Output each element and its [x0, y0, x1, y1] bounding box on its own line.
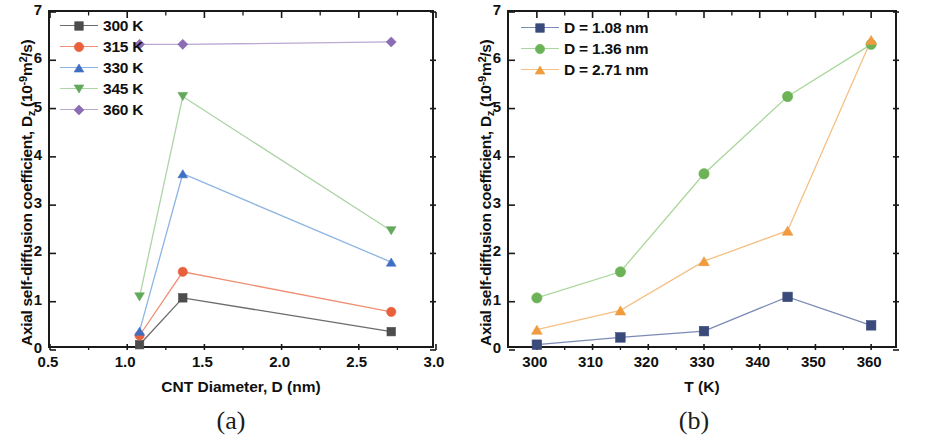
y-tick-label: 4: [473, 146, 501, 163]
x-tick-label: 350: [788, 353, 838, 370]
x-tick-label: 300: [510, 353, 560, 370]
data-marker: [532, 293, 542, 303]
x-tick-label: 1.5: [177, 353, 227, 370]
legend-key: [60, 19, 98, 33]
data-marker: [532, 340, 542, 350]
data-marker: [74, 42, 83, 51]
x-tick-label: 320: [621, 353, 671, 370]
panel-b-legend: D = 1.08 nmD = 1.36 nmD = 2.71 nm: [521, 18, 648, 80]
series-line: [140, 97, 392, 297]
series-line: [140, 174, 392, 331]
data-marker: [74, 85, 84, 93]
y-title-exponent: -9: [476, 76, 488, 85]
legend-key: [521, 63, 559, 77]
figure-root: Axial self-diffusion coefficient, Dz (10…: [0, 0, 925, 443]
series-line: [537, 297, 871, 345]
panel-b-x-axis-title: T (K): [507, 378, 897, 396]
x-tick-label: 360: [844, 353, 894, 370]
panel-b: Axial self-diffusion coefficient, Dz (10…: [463, 0, 925, 443]
legend-marker-icon: [73, 41, 85, 53]
data-marker: [178, 267, 187, 276]
legend-marker-icon: [73, 83, 85, 95]
legend-label: 345 K: [103, 80, 143, 98]
data-marker: [386, 37, 396, 47]
y-tick-label: 6: [473, 49, 501, 66]
data-marker: [616, 333, 626, 343]
y-tick-label: 2: [14, 242, 42, 259]
panel-a-caption: (a): [0, 406, 462, 436]
data-marker: [866, 321, 876, 331]
legend-marker-icon: [73, 62, 85, 74]
legend-key: [60, 40, 98, 54]
data-marker: [535, 44, 544, 53]
series-line: [537, 40, 871, 330]
data-marker: [178, 170, 188, 178]
panel-a-x-axis-title: CNT Diameter, D (nm): [48, 378, 434, 396]
x-tick-label: 330: [677, 353, 727, 370]
y-tick-label: 3: [14, 194, 42, 211]
legend-item[interactable]: D = 2.71 nm: [521, 60, 648, 80]
data-marker: [74, 64, 84, 72]
panel-a: Axial self-diffusion coefficient, Dz (10…: [0, 0, 462, 443]
series-line: [140, 42, 392, 44]
legend-label: 315 K: [103, 38, 143, 56]
data-marker: [866, 35, 877, 44]
legend-label: D = 1.08 nm: [564, 19, 648, 37]
legend-marker-icon: [534, 64, 546, 76]
legend-key: [60, 82, 98, 96]
y-tick-label: 5: [473, 98, 501, 115]
data-marker: [74, 105, 84, 115]
legend-key: [60, 61, 98, 75]
data-marker: [532, 325, 543, 334]
data-marker: [536, 24, 545, 33]
legend-item[interactable]: 330 K: [60, 58, 143, 78]
y-tick-label: 1: [473, 291, 501, 308]
legend-label: D = 1.36 nm: [564, 40, 648, 58]
y-tick-label: 3: [473, 194, 501, 211]
data-marker: [782, 91, 792, 101]
data-marker: [386, 258, 396, 266]
y-tick-label: 1: [14, 291, 42, 308]
legend-item[interactable]: 345 K: [60, 79, 143, 99]
legend-label: 300 K: [103, 17, 143, 35]
data-marker: [782, 226, 793, 235]
y-title-exponent: -9: [17, 76, 29, 85]
panel-b-caption: (b): [463, 406, 925, 436]
legend-key: [521, 21, 559, 35]
legend-key: [60, 103, 98, 117]
legend-item[interactable]: D = 1.08 nm: [521, 18, 648, 38]
legend-item[interactable]: D = 1.36 nm: [521, 39, 648, 59]
data-marker: [387, 307, 396, 316]
data-marker: [615, 267, 625, 277]
legend-item[interactable]: 360 K: [60, 100, 143, 120]
legend-label: D = 2.71 nm: [564, 61, 648, 79]
data-marker: [699, 257, 710, 266]
x-tick-label: 2.5: [332, 353, 382, 370]
data-marker: [699, 326, 709, 336]
data-marker: [75, 22, 84, 31]
legend-marker-icon: [73, 104, 85, 116]
y-tick-label: 2: [473, 242, 501, 259]
y-tick-label: 6: [14, 49, 42, 66]
legend-marker-icon: [534, 43, 546, 55]
data-marker: [386, 227, 396, 235]
legend-item[interactable]: 315 K: [60, 37, 143, 57]
y-tick-label: 5: [14, 98, 42, 115]
data-marker: [178, 39, 188, 49]
x-tick-label: 1.0: [100, 353, 150, 370]
data-marker: [615, 306, 626, 315]
data-marker: [783, 292, 793, 302]
legend-label: 360 K: [103, 101, 143, 119]
y-tick-label: 7: [14, 1, 42, 18]
data-marker: [699, 169, 709, 179]
data-marker: [387, 327, 396, 336]
data-marker: [535, 66, 545, 74]
y-tick-label: 7: [473, 1, 501, 18]
x-tick-label: 0.5: [23, 353, 73, 370]
legend-item[interactable]: 300 K: [60, 16, 143, 36]
x-tick-label: 340: [733, 353, 783, 370]
x-tick-label: 2.0: [255, 353, 305, 370]
data-marker: [135, 340, 144, 349]
x-tick-label: 310: [566, 353, 616, 370]
legend-marker-icon: [534, 22, 546, 34]
